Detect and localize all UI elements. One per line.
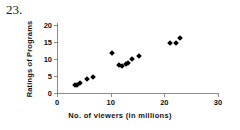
x-tick-mark [57, 94, 58, 97]
data-point [109, 50, 115, 56]
y-tick-mark [54, 76, 57, 77]
y-tick-mark [54, 42, 57, 43]
y-tick-label: 10 [44, 55, 52, 64]
x-axis-title: No. of viewers (in millions) [0, 111, 240, 120]
y-tick-label: 5 [48, 72, 52, 81]
y-tick-mark [54, 59, 57, 60]
x-tick-mark [164, 94, 165, 97]
y-tick-label: 20 [44, 21, 52, 30]
y-axis-title: Ratings of Programs [25, 21, 34, 98]
x-tick-mark [111, 94, 112, 97]
data-point [178, 35, 184, 41]
y-tick-mark [54, 25, 57, 26]
x-tick-label: 30 [214, 98, 222, 107]
x-tick-mark [218, 94, 219, 97]
y-axis-line [57, 23, 58, 94]
data-point [84, 77, 90, 83]
plot-area: 05101520 0102030 [57, 25, 218, 93]
x-axis-line [57, 93, 219, 94]
y-axis-title-container: Ratings of Programs [22, 20, 36, 98]
x-tick-label: 10 [106, 98, 114, 107]
data-point [91, 74, 97, 80]
scatter-plot-figure: 23. Ratings of Programs 05101520 0102030… [0, 0, 240, 130]
data-point [136, 53, 142, 59]
y-tick-label: 15 [44, 38, 52, 47]
y-tick-label: 0 [48, 89, 52, 98]
x-tick-label: 0 [55, 98, 59, 107]
data-point [167, 41, 173, 47]
data-point [173, 40, 179, 46]
x-tick-label: 20 [160, 98, 168, 107]
data-point [129, 56, 135, 62]
problem-number: 23. [6, 3, 22, 17]
